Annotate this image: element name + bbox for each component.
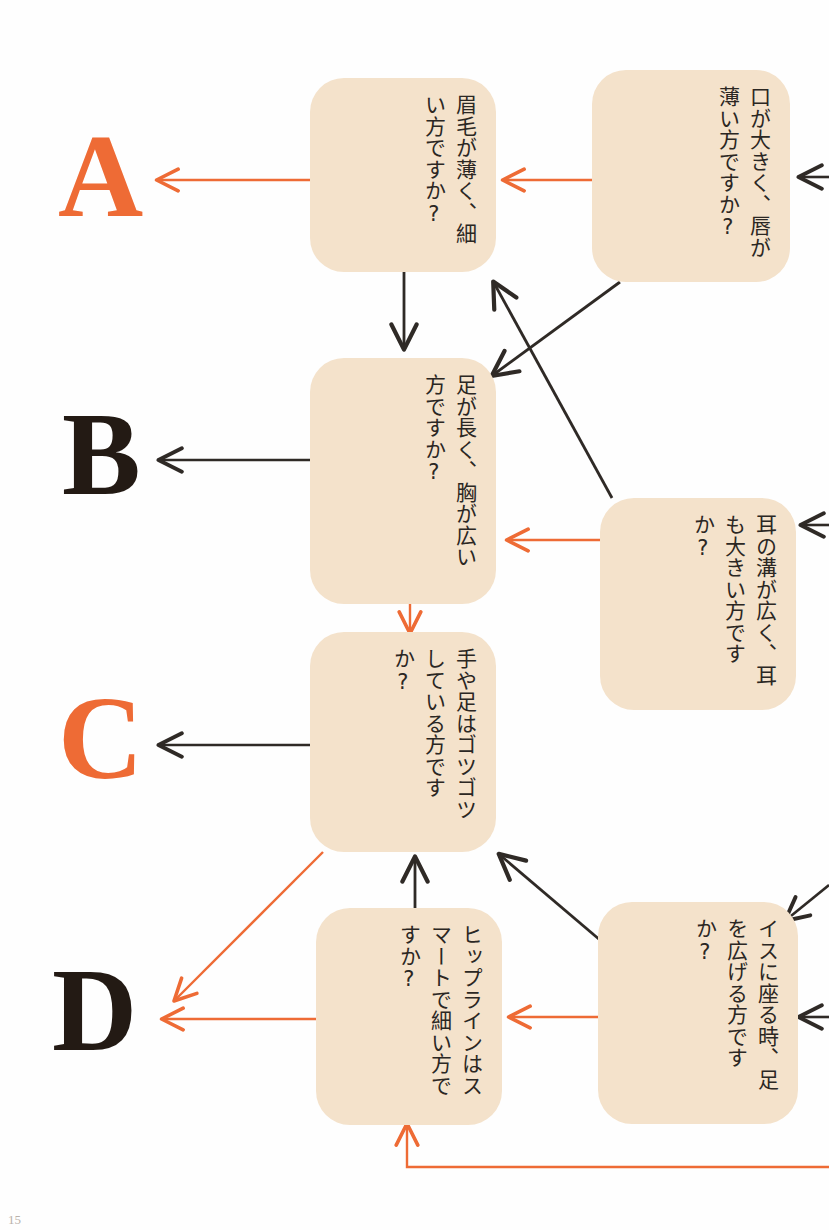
result-letter-C: C xyxy=(58,680,143,798)
result-letter-A: A xyxy=(58,118,143,236)
result-letter-B: B xyxy=(62,396,141,514)
question-text-chair: イスに座る時、足を広げる方ですか? xyxy=(689,918,782,1108)
question-text-hands-feet: 手や足はゴツゴツしている方ですか? xyxy=(387,648,480,836)
arrow-entry-diagonal-to-chair xyxy=(786,885,829,920)
question-box-legs-chest[interactable]: 足が長く、胸が広い方ですか? xyxy=(310,358,496,604)
question-text-eyebrow: 眉毛が薄く、細い方ですか? xyxy=(418,94,480,256)
question-box-eyebrow[interactable]: 眉毛が薄く、細い方ですか? xyxy=(310,78,496,272)
question-box-ears[interactable]: 耳の溝が広く、耳も大きい方ですか? xyxy=(600,498,796,710)
arrow-mouth-to-legs xyxy=(493,282,620,375)
arrow-ears-to-mouth xyxy=(494,283,612,498)
question-text-hips: ヒップラインはスマートで細い方ですか? xyxy=(393,924,486,1109)
question-text-ears: 耳の溝が広く、耳も大きい方ですか? xyxy=(687,514,780,694)
arrow-chair-to-hands xyxy=(500,855,600,940)
question-box-hips[interactable]: ヒップラインはスマートで細い方ですか? xyxy=(316,908,502,1125)
page-number: 15 xyxy=(8,1212,21,1228)
flowchart-page: A B C D 眉毛が薄く、細い方ですか? 口が大きく、唇が薄い方ですか? 足が… xyxy=(0,0,829,1230)
question-text-mouth: 口が大きく、唇が薄い方ですか? xyxy=(712,86,774,266)
question-box-mouth[interactable]: 口が大きく、唇が薄い方ですか? xyxy=(592,70,790,282)
question-text-legs-chest: 足が長く、胸が広い方ですか? xyxy=(418,374,480,588)
question-box-chair[interactable]: イスに座る時、足を広げる方ですか? xyxy=(598,902,798,1124)
result-letter-D: D xyxy=(52,952,137,1070)
arrow-loopback-to-hips xyxy=(407,1125,829,1167)
question-box-hands-feet[interactable]: 手や足はゴツゴツしている方ですか? xyxy=(310,632,496,852)
arrow-hands-to-D xyxy=(175,852,323,1000)
